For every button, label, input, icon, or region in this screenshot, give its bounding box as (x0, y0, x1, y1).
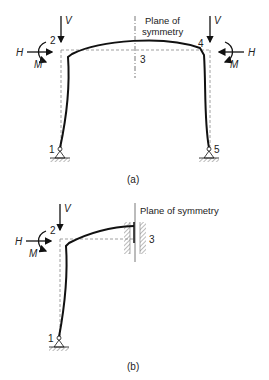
node-label-2b: 2 (50, 225, 56, 236)
label-h-b: H (15, 236, 23, 247)
deformed-frame-a (60, 40, 209, 148)
node-label-3a: 3 (140, 54, 146, 65)
plane-label-a-line1: Plane of (145, 15, 180, 26)
node-label-4a: 4 (198, 38, 204, 49)
label-h-right: H (248, 47, 256, 58)
figure-a: V H M 2 V H M 4 3 1 5 Plane of symmetry … (16, 15, 256, 185)
node-label-3b: 3 (149, 234, 155, 245)
node-label-2a: 2 (50, 35, 56, 46)
label-m-right: M (230, 59, 239, 70)
undeformed-frame-a (61, 50, 210, 150)
guide-wall-right (140, 222, 146, 254)
undeformed-frame-b (60, 239, 133, 338)
label-m-b: M (29, 248, 38, 259)
node-label-5a: 5 (214, 144, 220, 155)
label-v-b: V (64, 203, 72, 214)
plane-label-a-line2: symmetry (142, 26, 183, 37)
node-label-1b: 1 (48, 333, 54, 344)
deformed-frame-b (59, 226, 134, 337)
caption-a: (a) (127, 174, 139, 185)
frame-diagram: V H M 2 V H M 4 3 1 5 Plane of symmetry … (0, 0, 269, 380)
label-v-right: V (214, 15, 222, 26)
label-v-left: V (65, 15, 73, 26)
label-m-left: M (34, 59, 43, 70)
figure-b: V H M 2 3 1 Plane of symmetry (b) (15, 203, 219, 372)
plane-label-b: Plane of symmetry (140, 205, 219, 216)
caption-b: (b) (127, 361, 139, 372)
label-h-left: H (16, 47, 24, 58)
node-label-1a: 1 (49, 144, 55, 155)
